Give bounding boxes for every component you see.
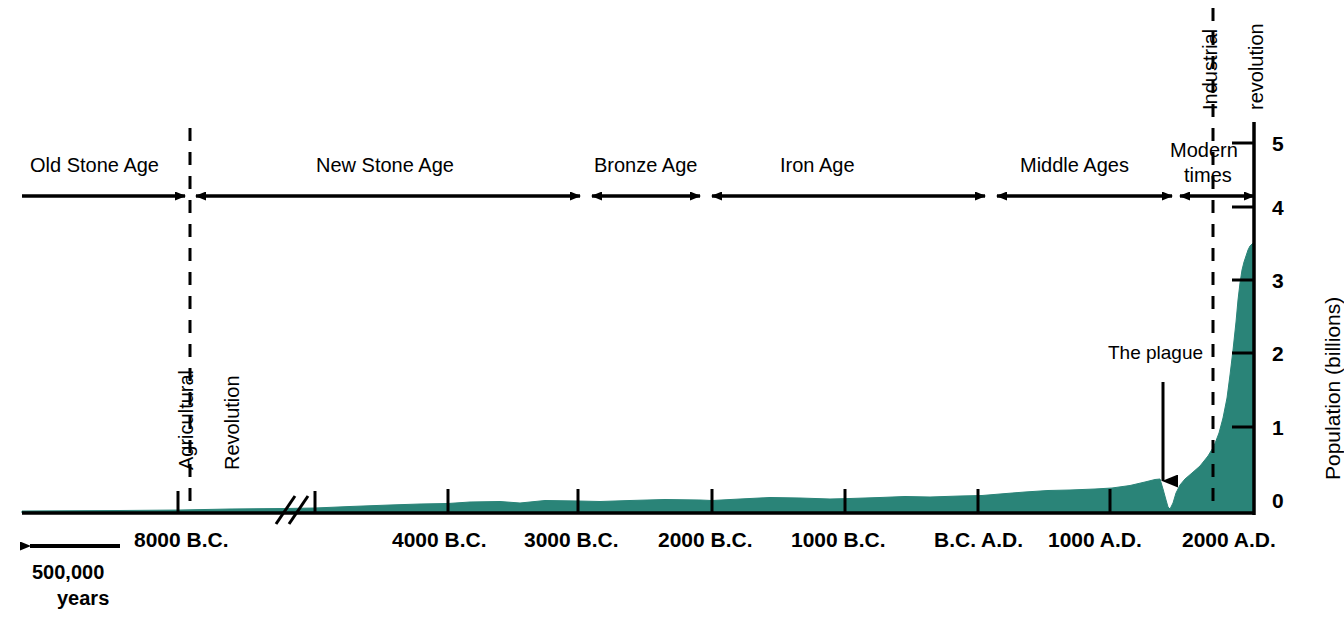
- population-area-series: [22, 243, 1253, 513]
- xtick-label-4000-bc: 4000 B.C.: [392, 529, 487, 550]
- era-label-new-stone-age: New Stone Age: [316, 155, 454, 175]
- chart-axes: [22, 122, 1254, 515]
- xtick-label-bc-ad: B.C. A.D.: [934, 529, 1023, 550]
- ytick-label-3: 3: [1272, 270, 1284, 291]
- industrial-revolution-label-industrial: Industrial: [1200, 29, 1220, 110]
- era-label-iron-age: Iron Age: [780, 155, 855, 175]
- ytick-label-1: 1: [1272, 417, 1284, 438]
- era-label-modern-times-line1: Modern: [1170, 140, 1238, 160]
- xtick-label-3000-bc: 3000 B.C.: [524, 529, 619, 550]
- xtick-label-1000-ad: 1000 A.D.: [1048, 529, 1142, 550]
- industrial-revolution-label-revolution: revolution: [1246, 23, 1266, 110]
- xtick-label-2000-bc: 2000 B.C.: [658, 529, 753, 550]
- agricultural-revolution-label-agricultural: Agricultural: [176, 370, 196, 470]
- era-label-old-stone-age: Old Stone Age: [30, 155, 159, 175]
- xtick-label-2000-ad: 2000 A.D.: [1182, 529, 1276, 550]
- xtick-label-8000-bc: 8000 B.C.: [134, 529, 229, 550]
- era-label-modern-times-line2: times: [1184, 165, 1232, 185]
- plague-annotation-label: The plague: [1108, 343, 1203, 362]
- agricultural-revolution-label-revolution: Revolution: [222, 375, 242, 470]
- era-label-bronze-age: Bronze Age: [594, 155, 697, 175]
- ytick-label-5: 5: [1272, 133, 1284, 154]
- xtick-label-1000-bc: 1000 B.C.: [791, 529, 886, 550]
- left-span-note-line1: 500,000: [32, 562, 104, 582]
- ytick-label-0: 0: [1272, 490, 1284, 511]
- y-axis-title: Population (billions): [1322, 297, 1343, 480]
- event-dashed-lines: [190, 8, 1213, 512]
- era-label-middle-ages: Middle Ages: [1020, 155, 1129, 175]
- left-span-note-line2: years: [57, 588, 109, 608]
- ytick-label-4: 4: [1272, 197, 1284, 218]
- ytick-label-2: 2: [1272, 343, 1284, 364]
